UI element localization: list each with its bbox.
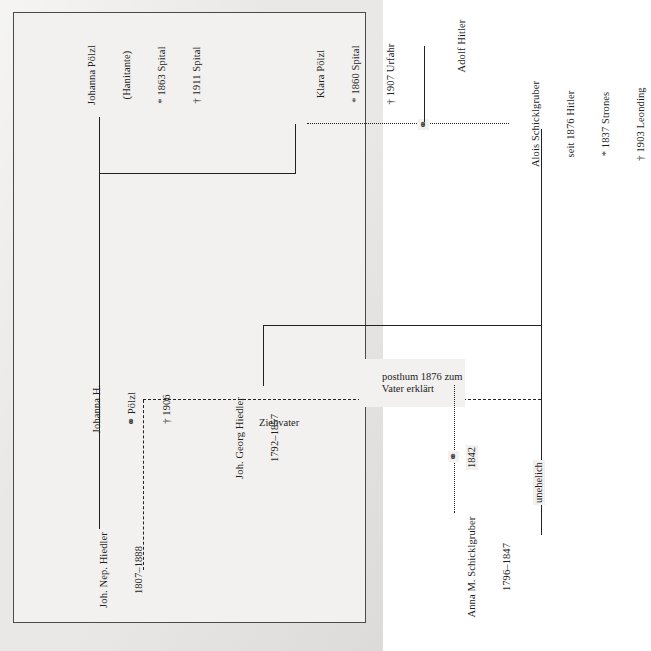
marriage-symbol-anna-georg: ⚭ <box>448 451 459 462</box>
person-birth: * 1863 Spital <box>156 22 168 128</box>
person-name: Joh. Nep. Hiedler <box>98 528 110 612</box>
person-joh-nep-hiedler: Joh. Nep. Hiedler 1807–1888 <box>74 528 168 612</box>
connector-poelzl-descent-to-klara <box>295 124 296 174</box>
label-posthum-vater-erklaert: posthum 1876 zum Vater erklärt <box>359 359 465 407</box>
person-name: Johanna Pölzl <box>86 22 98 128</box>
person-marriage: ⚭ Pölzl <box>126 373 138 445</box>
person-dates: 1796–1847 <box>501 512 513 622</box>
annotation-line-1: posthum 1876 zum <box>382 371 463 382</box>
person-johanna-h: Johanna H. ⚭ Pölzl † 1906 <box>67 373 196 445</box>
annotation-line-2: Vater erklärt <box>382 383 434 394</box>
figure-frame-border: Joh. Nep. Hiedler 1807–1888 Johanna H. ⚭… <box>13 12 366 623</box>
person-name: Johanna H. <box>91 373 103 445</box>
label-unehelich: unehelich <box>533 460 545 505</box>
person-klara-poelzl: Klara Pölzl * 1860 Spital † 1907 Urfahr <box>291 22 420 126</box>
connector-top-generation-spine <box>99 117 100 529</box>
person-name: Anna M. Schicklgruber <box>466 512 478 622</box>
connector-georg-bracket-vertical <box>263 325 541 326</box>
person-name: Klara Pölzl <box>315 22 327 126</box>
connector-descent-to-adolf <box>424 46 425 122</box>
person-death: † 1906 <box>161 373 173 445</box>
person-birth: * 1837 Strones <box>600 63 612 185</box>
person-anna-schicklgruber: Anna M. Schicklgruber 1796–1847 <box>442 512 536 622</box>
person-johanna-poelzl: Johanna Pölzl (Hanitante) * 1863 Spital … <box>62 22 227 128</box>
connector-georg-bracket-horizontal <box>263 326 264 386</box>
person-nickname: (Hanitante) <box>121 22 133 128</box>
connector-ziehvater-vertical <box>143 399 541 400</box>
person-name: Joh. Georg Hiedler <box>234 385 246 491</box>
person-alois-schicklgruber: Alois Schicklgruber seit 1876 Hitler * 1… <box>506 63 651 185</box>
genealogy-chart: Joh. Nep. Hiedler 1807–1888 Johanna H. ⚭… <box>14 13 365 622</box>
person-joh-georg-hiedler: Joh. Georg Hiedler 1792–1857 <box>210 385 304 491</box>
person-name: Alois Schicklgruber <box>530 63 542 185</box>
connector-anna-georg-marriage-dotted <box>454 385 455 513</box>
person-death: † 1903 Leonding <box>635 63 647 185</box>
connector-poelzl-descent-vertical <box>99 173 295 174</box>
person-death: † 1907 Urfahr <box>385 22 397 126</box>
person-death: † 1911 Spital <box>191 22 203 128</box>
person-adolf-hitler: Adolf Hitler <box>432 10 491 82</box>
person-name: Adolf Hitler <box>456 10 468 82</box>
person-renamed: seit 1876 Hitler <box>565 63 577 185</box>
person-birth: * 1860 Spital <box>350 22 362 126</box>
label-marriage-year-1842: 1842 <box>466 445 478 470</box>
connector-ziehvater-horizontal <box>143 400 144 570</box>
person-dates: 1792–1857 <box>269 385 281 491</box>
